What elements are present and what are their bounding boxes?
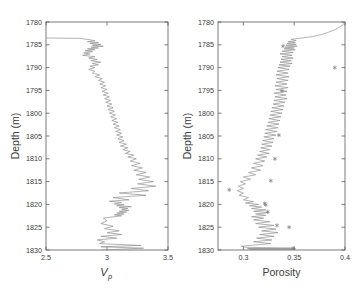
asterisk-marker — [287, 225, 291, 229]
y-tick-label: 1790 — [198, 63, 214, 72]
asterisk-marker — [333, 66, 337, 70]
asterisk-marker — [227, 188, 231, 192]
well-log-figure: 1780178517901795180018051810181518201825… — [0, 0, 357, 295]
porosity-depth-plot: 1780178517901795180018051810181518201825… — [0, 0, 357, 295]
y-tick-label: 1825 — [198, 223, 214, 232]
porosity-depth-panel: 1780178517901795180018051810181518201825… — [0, 0, 357, 295]
asterisk-marker — [277, 133, 281, 137]
x-tick-label: 0.35 — [287, 253, 301, 262]
x-tick-label: 0.4 — [340, 253, 350, 262]
y-tick-label: 1785 — [198, 40, 214, 49]
x-tick-label: 0.3 — [238, 253, 248, 262]
y-tick-label: 1800 — [198, 109, 214, 118]
x-axis-title: Porosity — [263, 266, 302, 278]
y-tick-label: 1795 — [198, 86, 214, 95]
y-tick-label: 1820 — [198, 200, 214, 209]
y-tick-label: 1805 — [198, 132, 214, 141]
asterisk-marker — [275, 223, 279, 227]
asterisk-marker — [273, 157, 277, 161]
data-layer — [227, 22, 345, 252]
log-curve — [237, 22, 345, 250]
asterisk-marker — [269, 179, 273, 183]
y-tick-label: 1810 — [198, 154, 214, 163]
plot-frame — [218, 22, 345, 250]
y-tick-label: 1815 — [198, 177, 214, 186]
asterisk-marker — [281, 44, 285, 48]
y-tick-label: 1780 — [198, 18, 214, 27]
y-tick-label: 1830 — [198, 246, 214, 255]
y-axis-title: Depth (m) — [181, 113, 193, 160]
